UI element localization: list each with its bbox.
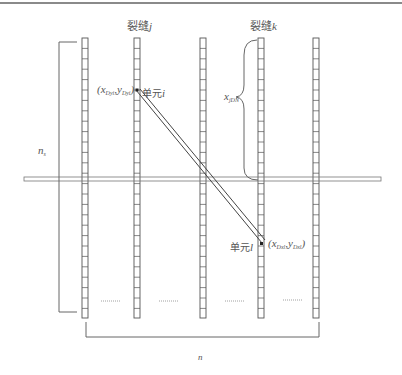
- crack-j-var: j: [149, 20, 152, 32]
- bottom-dimension-label: n: [198, 353, 203, 362]
- brace-label: xjDN: [224, 91, 239, 103]
- element-i-name: 单元i: [142, 84, 165, 100]
- element-l-marker: [260, 242, 263, 245]
- crack-j-prefix: 裂缝: [127, 20, 149, 33]
- element-l-coord-label: (xDxl,yDxl): [268, 238, 305, 250]
- diagram-canvas: [0, 0, 402, 375]
- element-i-coord-label: (xDyi,yDyi): [97, 84, 134, 96]
- crack-columns: [82, 38, 319, 318]
- crack-column-1: [82, 38, 88, 318]
- crack-column-5: [313, 38, 319, 318]
- element-i-marker: [136, 89, 139, 92]
- crack-column-4: [258, 38, 264, 318]
- curly-brace: [236, 40, 258, 180]
- connection-line-1: [136, 90, 262, 243]
- crack-k-prefix: 裂缝: [250, 20, 272, 33]
- bottom-bracket: [86, 322, 319, 337]
- crack-k-label: 裂缝k: [250, 21, 277, 32]
- crack-column-3: [200, 38, 206, 318]
- element-l-name: 单元l: [230, 238, 253, 254]
- left-dimension-label: ns: [38, 145, 46, 157]
- crack-k-var: k: [272, 20, 277, 32]
- crack-column-2: [134, 38, 140, 318]
- crack-j-label: 裂缝j: [127, 21, 152, 32]
